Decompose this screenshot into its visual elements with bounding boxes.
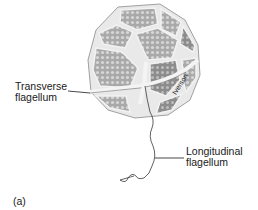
cell-body [88,4,200,118]
dinoflagellate-figure: Transverse flagellum Longitudinal flagel… [0,0,258,210]
longitudinal-flagellum-label: Longitudinal flagellum [186,146,243,168]
longitudinal-label-line2: flagellum [186,157,243,168]
transverse-flagellum-label: Transverse flagellum [15,81,67,103]
dinoflagellate-illustration [0,0,258,210]
transverse-leader-line [68,91,90,93]
transverse-label-line2: flagellum [15,92,67,103]
panel-label: (a) [13,195,26,207]
